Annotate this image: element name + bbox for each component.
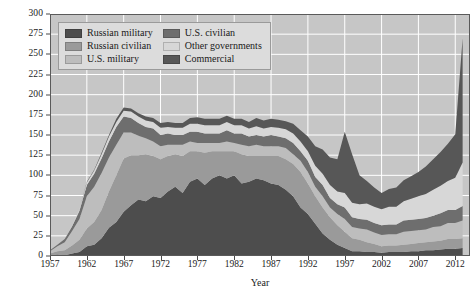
legend-label: Commercial — [185, 53, 234, 65]
chart-legend: Russian militaryU.S. civilianRussian civ… — [58, 22, 271, 70]
x-tick-label: 1977 — [188, 259, 207, 269]
y-tick-label: 125 — [28, 150, 43, 160]
x-tick-label: 1987 — [262, 259, 281, 269]
spacecraft-launches-area-chart: 0255075100125150175200225250275300 Numbe… — [0, 0, 476, 297]
legend-swatch-icon — [65, 55, 82, 64]
x-tick-mark — [124, 256, 125, 260]
x-tick-label: 2002 — [372, 259, 391, 269]
y-tick-label: 175 — [28, 110, 43, 120]
legend-item: Russian military — [65, 27, 153, 39]
x-tick-mark — [197, 256, 198, 260]
legend-item: Other governments — [163, 40, 262, 52]
x-tick-mark — [87, 256, 88, 260]
x-tick-mark — [418, 256, 419, 260]
legend-label: U.S. civilian — [185, 27, 235, 39]
y-tick-label: 75 — [33, 191, 43, 201]
y-axis: 0255075100125150175200225250275300 — [0, 14, 50, 256]
legend-label: U.S. military — [87, 53, 139, 65]
legend-swatch-icon — [163, 42, 180, 51]
x-axis-title: Year — [50, 277, 470, 288]
x-tick-mark — [271, 256, 272, 260]
y-tick-label: 150 — [28, 130, 43, 140]
legend-swatch-icon — [65, 29, 82, 38]
x-tick-label: 1982 — [225, 259, 244, 269]
legend-swatch-icon — [65, 42, 82, 51]
x-tick-mark — [382, 256, 383, 260]
x-tick-mark — [345, 256, 346, 260]
legend-label: Russian military — [87, 27, 153, 39]
legend-label: Russian civilian — [87, 40, 151, 52]
y-tick-label: 200 — [28, 90, 43, 100]
x-tick-label: 2012 — [446, 259, 465, 269]
x-tick-label: 1967 — [114, 259, 133, 269]
x-axis: 1957196219671972197719821987199219972002… — [50, 256, 470, 278]
x-tick-mark — [308, 256, 309, 260]
x-tick-label: 1997 — [335, 259, 354, 269]
y-tick-label: 250 — [28, 50, 43, 60]
y-tick-label: 100 — [28, 171, 43, 181]
legend-swatch-icon — [163, 55, 180, 64]
y-tick-label: 50 — [33, 211, 43, 221]
x-tick-mark — [455, 256, 456, 260]
x-tick-label: 1992 — [298, 259, 317, 269]
x-tick-mark — [161, 256, 162, 260]
x-tick-mark — [50, 256, 51, 260]
legend-item: U.S. civilian — [163, 27, 262, 39]
x-tick-label: 2007 — [409, 259, 428, 269]
y-tick-label: 25 — [33, 231, 43, 241]
legend-item: Russian civilian — [65, 40, 153, 52]
legend-item: U.S. military — [65, 53, 153, 65]
x-tick-label: 1972 — [151, 259, 170, 269]
x-tick-label: 1957 — [41, 259, 60, 269]
y-tick-label: 275 — [28, 29, 43, 39]
y-tick-label: 300 — [28, 9, 43, 19]
x-tick-label: 1962 — [77, 259, 96, 269]
x-tick-mark — [234, 256, 235, 260]
y-axis-title-wrapper: Number of spacecraft — [14, 14, 15, 256]
legend-item: Commercial — [163, 53, 262, 65]
legend-swatch-icon — [163, 29, 180, 38]
legend-label: Other governments — [185, 40, 262, 52]
area-series-group — [50, 38, 463, 256]
y-tick-label: 225 — [28, 70, 43, 80]
